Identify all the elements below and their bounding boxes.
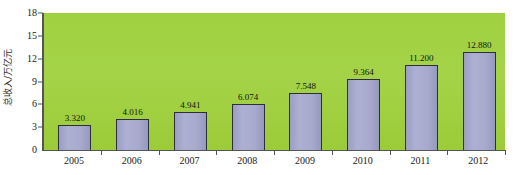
bar-value-label: 4.016 [123, 108, 143, 117]
x-axis-tick-mark [101, 151, 102, 155]
x-axis-tick-label: 2012 [468, 156, 488, 166]
x-axis-tick-mark [390, 151, 391, 155]
bar-value-label: 4.941 [180, 101, 200, 110]
bar-value-label: 11.200 [409, 54, 433, 63]
bar [463, 52, 496, 150]
x-axis-tick-label: 2005 [64, 156, 84, 166]
x-axis-tick-label: 2006 [122, 156, 142, 166]
y-axis-tick-mark [38, 104, 43, 105]
x-axis-tick-mark [159, 151, 160, 155]
y-axis-tick-mark [38, 127, 43, 128]
y-axis-tick-label: 15 [27, 31, 37, 41]
y-axis-title-text: 总收入/万亿元 [2, 49, 15, 106]
bar [289, 93, 322, 150]
x-axis-tick-label: 2011 [411, 156, 431, 166]
y-axis-title: 总收入/万亿元 [0, 0, 16, 155]
y-axis-tick-mark [38, 35, 43, 36]
bar [116, 119, 149, 150]
bar [58, 125, 91, 150]
y-axis-tick-mark [38, 81, 43, 82]
x-axis-tick-mark [505, 151, 506, 155]
y-axis-tick-label: 6 [32, 99, 37, 109]
y-axis-tick-label: 18 [27, 8, 37, 18]
x-axis-tick-label: 2009 [295, 156, 315, 166]
bar [174, 112, 207, 150]
x-axis-tick-label: 2008 [237, 156, 257, 166]
bar [405, 65, 438, 150]
x-axis-tick-mark [274, 151, 275, 155]
bar-value-label: 7.548 [296, 82, 316, 91]
bar-value-label: 6.074 [238, 93, 258, 102]
y-axis-tick-label: 3 [32, 122, 37, 132]
bar-chart: 总收入/万亿元 0369121518 3.3204.0164.9416.0747… [0, 0, 519, 175]
bar-value-label: 3.320 [65, 114, 85, 123]
y-axis-tick-mark [38, 58, 43, 59]
x-axis-tick-label: 2007 [179, 156, 199, 166]
plot-area: 3.3204.0164.9416.0747.5489.36411.20012.8… [43, 13, 505, 150]
bar [232, 104, 265, 150]
x-axis-tick-mark [216, 151, 217, 155]
y-axis-tick-label: 9 [32, 77, 37, 87]
x-axis-tick-label: 2010 [353, 156, 373, 166]
x-axis-tick-mark [332, 151, 333, 155]
y-axis-tick-mark [38, 13, 43, 14]
x-axis-tick-mark [447, 151, 448, 155]
y-axis-tick-labels: 0369121518 [16, 0, 40, 175]
bar-value-label: 9.364 [354, 68, 374, 77]
y-axis-tick-label: 0 [32, 145, 37, 155]
bar [347, 79, 380, 150]
bar-value-label: 12.880 [467, 41, 492, 50]
y-axis-tick-label: 12 [27, 54, 37, 64]
